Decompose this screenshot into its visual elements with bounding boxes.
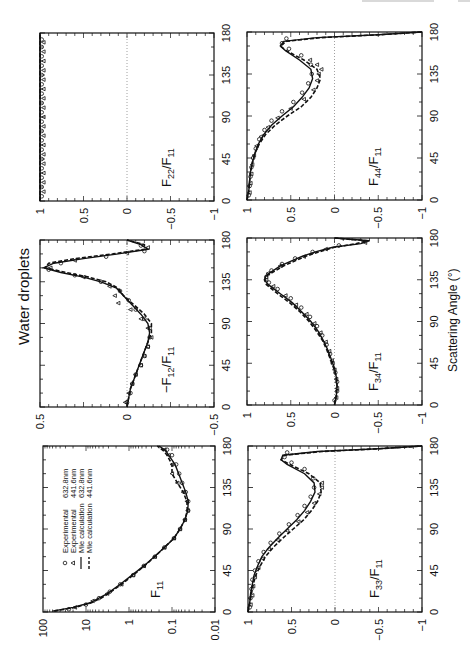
angle-tick-label: 135 [221,478,233,496]
legend-entry: Mie calculation441.6nm [85,469,94,569]
value-tick-label: 0 [121,208,133,214]
value-tick-label: 0.1 [166,619,178,634]
panel-label-subscript: 33 [374,580,384,590]
data-point-circle [280,110,284,114]
data-point-triangle [41,50,45,54]
angle-tick-label: 0 [220,404,232,410]
value-tick-label: −0.5 [373,619,385,641]
angle-tick-label: 45 [428,357,440,369]
data-point-triangle [305,511,309,515]
angle-tick-label: 90 [428,523,440,535]
value-tick-label: −1 [416,412,428,425]
panel-f12: 045901351800.50−0.5−F12/F11 [34,231,232,436]
data-point-circle [292,100,296,104]
value-tick-label: 0 [329,619,341,625]
data-point-circle [303,504,307,508]
angle-tick-label: 45 [220,359,232,371]
data-point-triangle [41,134,45,138]
value-tick-label: 0.5 [285,412,297,427]
value-tick-label: −1 [416,619,428,632]
value-tick-label: −0.5 [372,207,384,229]
panel-label: −F12/F11 [159,347,176,393]
data-point-triangle [41,171,45,175]
legend: Experimental632.8nmExperimental441.6nmMi… [61,469,94,569]
data-point-triangle [41,143,45,147]
panel-label-slash: /F [367,568,382,580]
data-point-triangle [41,106,45,110]
data-point-triangle [41,181,45,185]
angle-tick-label: 45 [220,153,232,165]
panel-label-subscript: 22 [166,169,176,179]
angle-tick-label: 180 [428,229,440,247]
panel-label-subscript: 11 [166,347,176,356]
panel-label-slash: /F [366,156,381,168]
value-tick-label: 1 [123,619,135,625]
angle-tick-label: 90 [428,110,440,122]
angle-tick-label: 0 [428,197,440,203]
value-tick-label: −0.5 [372,412,384,434]
angle-tick-label: 0 [428,609,440,615]
figure-page: 0459013518010.50−0.5−1F22/F1104590135180… [0,0,474,655]
legend-circle-icon [63,561,67,565]
angle-tick-label: 90 [221,523,233,535]
panel-label-subscript: 11 [166,148,176,157]
panel-label: F44/F11 [366,147,383,186]
x-axis-label: Scattering Angle (°) [446,268,460,372]
panel-f34: 0459013518010.50−0.5−1F34/F11 [241,229,440,434]
panel-label: F22/F11 [159,148,176,187]
panel-label: F33/F11 [367,559,384,598]
value-tick-label: 0 [329,412,341,418]
data-point-circle [299,54,303,58]
value-tick-label: −1 [208,208,220,221]
plot-canvas: 0459013518010.50−0.5−1F22/F1104590135180… [0,0,474,655]
value-tick-label: −1 [416,207,428,220]
data-point-triangle [139,317,143,321]
panel-label-subscript: 11 [373,147,383,156]
data-point-triangle [41,97,45,101]
data-point-triangle [315,63,319,67]
value-tick-label: −0.5 [165,208,177,230]
angle-tick-label: 180 [428,437,440,455]
angle-tick-label: 135 [428,65,440,83]
panel-label-subscript: 34 [373,373,383,383]
data-point-triangle [41,125,45,129]
angle-tick-label: 180 [221,437,233,455]
data-point-triangle [113,294,117,298]
panel-label-subscript: 44 [373,168,383,178]
data-point-triangle [41,153,45,157]
angle-tick-label: 45 [428,564,440,576]
panel-label: F11 [148,581,165,598]
angle-tick-label: 45 [221,564,233,576]
data-point-triangle [41,78,45,82]
angle-tick-label: 135 [428,271,440,289]
panel-label-slash: /F [159,157,174,169]
panel-label-subscript: 11 [374,559,384,568]
data-point-triangle [41,162,45,166]
data-point-circle [299,306,303,310]
legend-triangle-icon [71,561,75,565]
angle-tick-label: 90 [220,111,232,123]
value-tick-label: −0.5 [208,414,220,436]
angle-tick-label: 90 [220,317,232,329]
data-point-triangle [41,87,45,91]
angle-tick-label: 180 [220,231,232,249]
legend-wavelength: 441.6nm [85,469,94,498]
panel-f33: 0459013518010.50−0.5−1F33/F11 [242,437,440,641]
angle-tick-label: 45 [428,152,440,164]
data-point-circle [300,91,304,95]
angle-tick-label: 90 [428,315,440,327]
angle-tick-label: 180 [428,23,440,41]
data-point-triangle [116,301,120,305]
value-tick-label: 1 [241,207,253,213]
value-tick-label: 100 [37,619,49,637]
value-tick-label: 1 [34,208,46,214]
data-point-triangle [315,79,319,83]
data-point-triangle [308,58,312,62]
data-point-triangle [41,59,45,63]
angle-tick-label: 0 [220,198,232,204]
data-point-triangle [41,69,45,73]
data-point-circle [306,82,310,86]
panel-label-subscript: 11 [373,352,383,361]
data-point-circle [270,119,274,123]
value-tick-label: 1 [241,412,253,418]
